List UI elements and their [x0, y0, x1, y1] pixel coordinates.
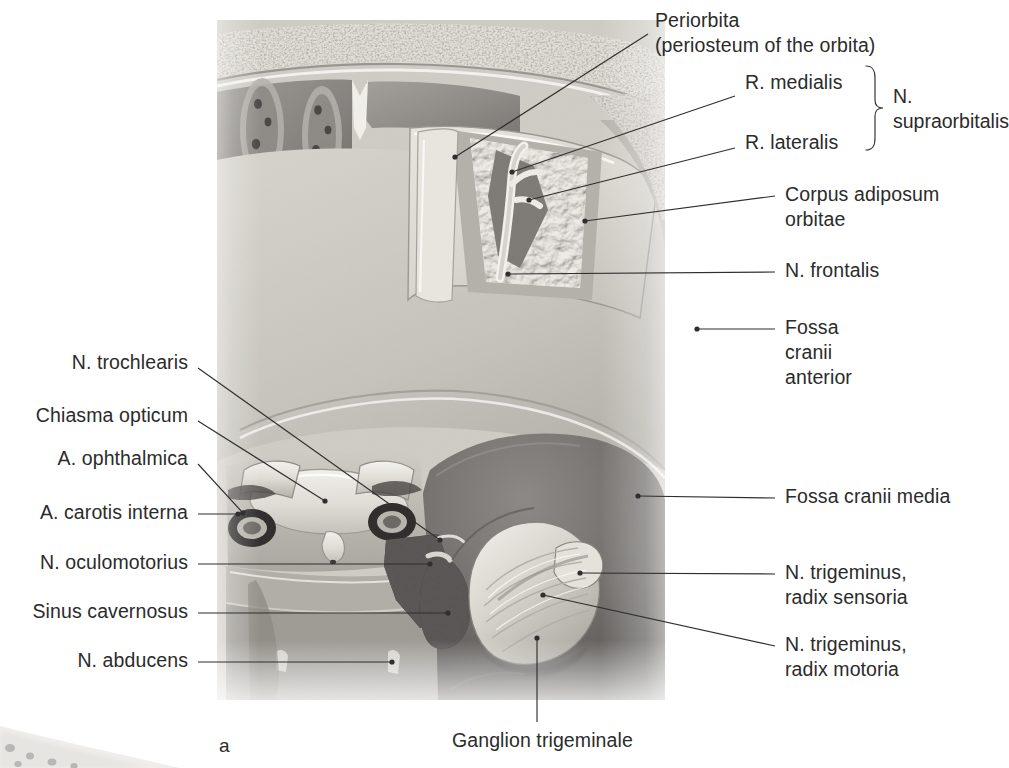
- figure-b-partial-edge: [0, 726, 180, 768]
- leader-dot-n-frontalis: [505, 271, 510, 276]
- leader-dot-sinus-cavernosus: [445, 610, 450, 615]
- label-n-abducens: N. abducens: [77, 648, 188, 673]
- leader-dot-n-trigeminus-radix-motoria: [540, 592, 545, 597]
- leader-dot-chiasma-opticum: [322, 498, 327, 503]
- leader-dot-n-oculomotorius: [427, 561, 432, 566]
- label-a-ophthalmica: A. ophthalmica: [58, 446, 188, 471]
- label-n-supraorbitalis: N. supraorbitalis: [893, 84, 1009, 134]
- leader-dot-a-ophthalmica: [240, 510, 245, 515]
- leader-dot-a-carotis-interna: [235, 511, 240, 516]
- label-chiasma-opticum: Chiasma opticum: [36, 403, 188, 428]
- panel-letter-a: a: [219, 735, 230, 757]
- label-fossa-cranii-anterior: Fossa cranii anterior: [785, 315, 852, 390]
- leader-dot-r-lateralis: [526, 197, 531, 202]
- leader-dot-n-abducens: [389, 659, 394, 664]
- label-corpus-adiposum-orbitae: Corpus adiposum orbitae: [785, 182, 939, 232]
- supraorbital-brace: [866, 66, 883, 150]
- label-periorbita: Periorbita (periosteum of the orbita): [655, 8, 875, 58]
- leader-dot-n-trochlearis: [437, 537, 442, 542]
- leader-dot-n-trigeminus-radix-sensoria: [577, 570, 582, 575]
- leader-dot-corpus-adiposum-orbitae: [582, 218, 587, 223]
- leader-dot-fossa-cranii-anterior: [694, 326, 699, 331]
- illustration-body: [217, 20, 665, 700]
- label-ganglion-trigeminale: Ganglion trigeminale: [452, 728, 633, 753]
- label-fossa-cranii-media: Fossa cranii media: [785, 484, 950, 509]
- leader-dot-periorbita: [452, 154, 457, 159]
- label-n-oculomotorius: N. oculomotorius: [40, 550, 188, 575]
- label-a-carotis-interna: A. carotis interna: [40, 500, 188, 525]
- paper-grain: [217, 20, 665, 700]
- label-r-lateralis: R. lateralis: [745, 130, 838, 155]
- label-r-medialis: R. medialis: [745, 70, 843, 95]
- leader-dot-fossa-cranii-media: [635, 493, 640, 498]
- label-n-trigeminus-radix-motoria: N. trigeminus, radix motoria: [785, 632, 907, 682]
- label-n-trigeminus-radix-sensoria: N. trigeminus, radix sensoria: [785, 560, 908, 610]
- leader-dot-ganglion-trigeminale: [534, 635, 539, 640]
- leader-dot-r-medialis: [509, 169, 514, 174]
- label-n-frontalis: N. frontalis: [785, 258, 879, 283]
- label-n-trochlearis: N. trochlearis: [72, 350, 188, 375]
- label-sinus-cavernosus: Sinus cavernosus: [32, 599, 188, 624]
